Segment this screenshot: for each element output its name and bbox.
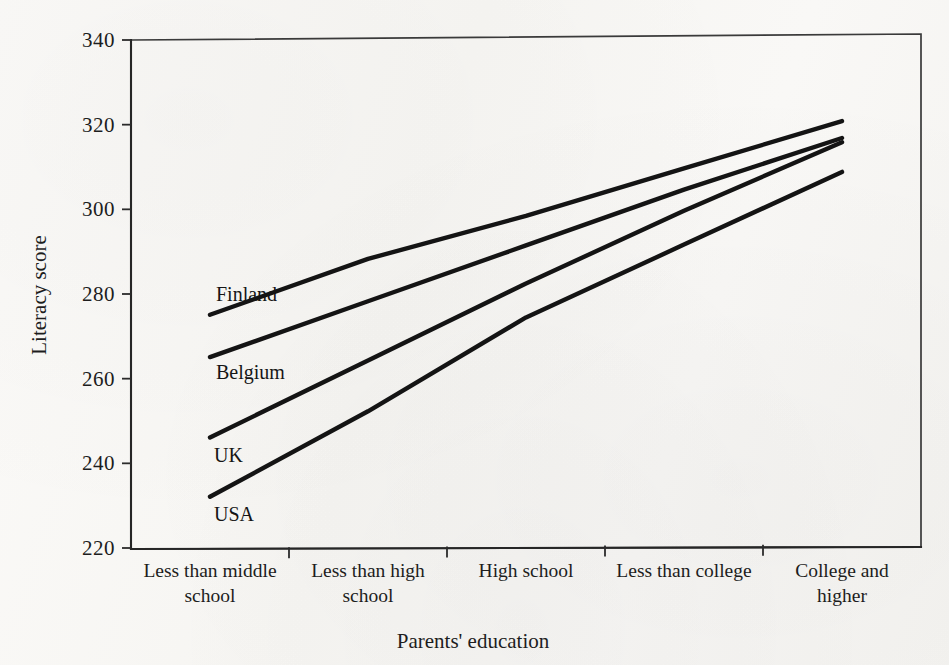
- y-tick-label: 240: [82, 451, 115, 475]
- y-tick-label: 280: [82, 282, 115, 306]
- x-category-label: Less than middle: [143, 560, 276, 581]
- x-category-label: College and: [795, 560, 889, 581]
- series-line-belgium: [210, 138, 842, 357]
- chart-canvas: 220240260280300320340 Less than middlesc…: [0, 0, 949, 665]
- y-axis: 220240260280300320340: [82, 28, 131, 560]
- x-axis-category-labels: Less than middleschoolLess than highscho…: [143, 560, 889, 606]
- x-category-label: higher: [817, 585, 867, 606]
- series-line-uk: [210, 142, 842, 437]
- x-axis-title: Parents' education: [397, 629, 550, 653]
- series-label-belgium: Belgium: [216, 361, 285, 384]
- y-tick-label: 300: [82, 197, 115, 221]
- x-category-label: High school: [479, 560, 574, 581]
- y-tick-label: 260: [82, 367, 115, 391]
- literacy-score-line-chart: 220240260280300320340 Less than middlesc…: [0, 0, 949, 665]
- y-tick-label: 220: [82, 536, 115, 560]
- y-tick-label: 340: [82, 28, 115, 52]
- series-lines-group: [210, 121, 842, 497]
- series-label-usa: USA: [214, 503, 255, 525]
- x-category-label: school: [343, 585, 394, 606]
- series-line-usa: [210, 172, 842, 497]
- series-label-uk: UK: [214, 444, 243, 466]
- series-label-finland: Finland: [216, 283, 277, 305]
- y-tick-label: 320: [82, 113, 115, 137]
- y-axis-title: Literacy score: [27, 235, 51, 355]
- x-category-label: Less than college: [616, 560, 751, 581]
- x-category-label: school: [185, 585, 236, 606]
- x-category-label: Less than high: [311, 560, 425, 581]
